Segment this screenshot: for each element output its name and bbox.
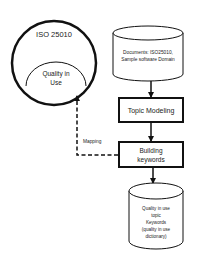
keywords-database: Quality in use topic Keywords (quality i… (129, 183, 183, 249)
documents-label-line1: Documents: ISO25010, (123, 50, 173, 55)
mapping-edge: Mapping (77, 96, 118, 155)
topic-modeling-label: Topic Modeling (128, 107, 175, 115)
keywords-label-line4: (quality in use (142, 227, 171, 232)
workflow-diagram: ISO 25010 Quality in Use Documents: ISO2… (0, 0, 198, 264)
building-keywords-box: Building keywords (119, 142, 183, 167)
mapping-label: Mapping (83, 139, 102, 144)
keywords-label-line5: dictionary) (145, 234, 167, 239)
keywords-label-line3: Keywords (146, 220, 167, 225)
quality-in-use-label-line2: Use (50, 79, 62, 86)
keywords-label-line2: topic (151, 213, 161, 218)
iso-25010-circle: ISO 25010 (12, 21, 96, 105)
documents-database: Documents: ISO25010, Sample software Dom… (113, 26, 183, 81)
building-keywords-label-line1: Building (139, 147, 163, 155)
building-keywords-label-line2: keywords (137, 156, 165, 164)
iso-25010-label: ISO 25010 (36, 30, 72, 39)
quality-in-use-label-line1: Quality in (42, 70, 69, 78)
documents-label-line2: Sample software Domain (121, 57, 175, 62)
keywords-label-line1: Quality in use (142, 206, 170, 211)
topic-modeling-box: Topic Modeling (119, 98, 183, 122)
